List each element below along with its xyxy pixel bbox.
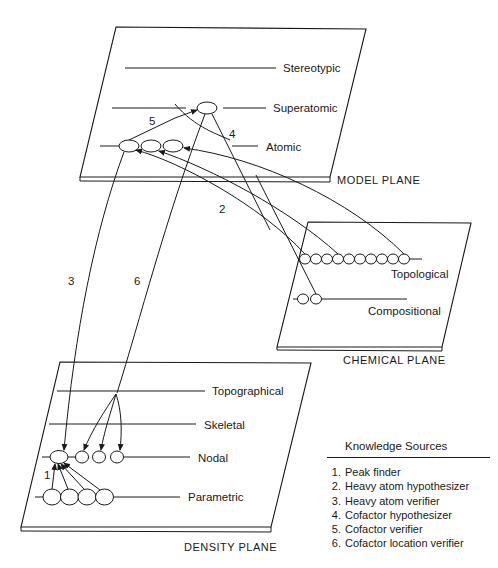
- level-stereotypic: Stereotypic: [283, 62, 341, 74]
- nodal-node-3: [93, 451, 106, 463]
- compositional-node-1: [298, 294, 309, 304]
- legend-item: 6.Cofactor location verifier: [327, 536, 498, 550]
- superatomic-node: [197, 102, 217, 114]
- model-plane: MODEL PLANE Stereotypic Superatomic Atom…: [80, 27, 420, 186]
- density-plane: DENSITY PLANE Topographical Skeletal Nod…: [21, 362, 311, 553]
- legend-item: 4.Cofactor hypothesizer: [327, 508, 498, 522]
- parametric-node-4: [96, 489, 114, 505]
- chemical-plane-label: CHEMICAL PLANE: [343, 354, 446, 366]
- legend-item: 1.Peak finder: [327, 465, 498, 479]
- nodal-node-2: [76, 451, 89, 463]
- level-superatomic: Superatomic: [273, 102, 338, 114]
- compositional-node-2: [311, 294, 322, 304]
- arrow-label-2: 2: [219, 203, 225, 215]
- atomic-node-2: [141, 140, 161, 152]
- level-compositional: Compositional: [368, 305, 441, 317]
- density-plane-label: DENSITY PLANE: [184, 541, 277, 553]
- parametric-node-3: [78, 489, 96, 505]
- legend-item: 2.Heavy atom hypothesizer: [327, 479, 498, 493]
- level-atomic: Atomic: [266, 141, 301, 153]
- parametric-node-2: [61, 489, 79, 505]
- legend-title: Knowledge Sources: [327, 439, 490, 458]
- nodal-node-main: [50, 451, 68, 464]
- arrow-label-6: 6: [134, 275, 140, 287]
- legend-item: 5.Cofactor verifier: [327, 522, 498, 536]
- level-parametric: Parametric: [188, 491, 244, 503]
- arrow-label-4: 4: [229, 128, 236, 140]
- parametric-node-1: [43, 489, 61, 505]
- arrow-label-1: 1: [44, 469, 50, 481]
- level-nodal: Nodal: [198, 452, 228, 464]
- topological-nodes: [300, 254, 423, 264]
- arrow-label-3: 3: [68, 275, 74, 287]
- level-topographical: Topographical: [212, 385, 284, 397]
- legend-item: 3.Heavy atom verifier: [327, 494, 498, 508]
- nodal-node-4: [111, 451, 124, 463]
- legend-list: 1.Peak finder 2.Heavy atom hypothesizer …: [327, 465, 498, 550]
- level-skeletal: Skeletal: [204, 419, 245, 431]
- level-topological: Topological: [391, 268, 449, 280]
- arrow-label-5: 5: [149, 115, 155, 127]
- model-plane-label: MODEL PLANE: [337, 174, 420, 186]
- chemical-plane: CHEMICAL PLANE Topological Compositional: [277, 222, 471, 366]
- knowledge-sources-legend: Knowledge Sources 1.Peak finder 2.Heavy …: [327, 439, 498, 550]
- atomic-node-3: [163, 140, 183, 152]
